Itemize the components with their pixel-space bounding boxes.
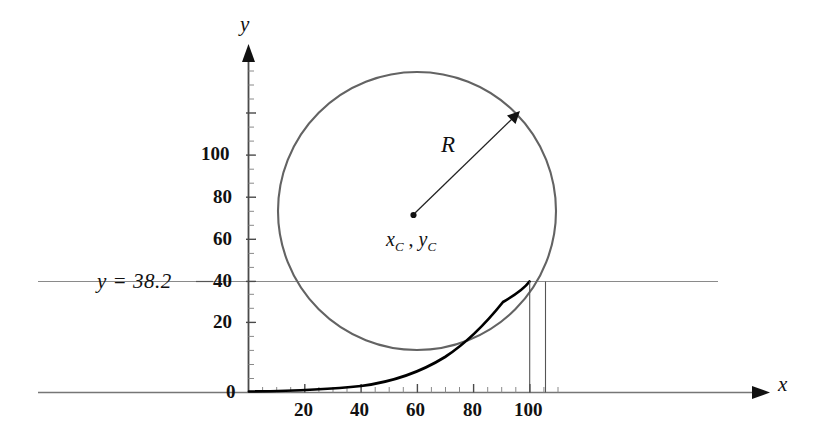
x-tick-label-40: 40 [350,399,369,421]
x-tick-label-100: 100 [514,399,543,421]
center-label-separator: , [404,228,419,250]
x-tick-label-20: 20 [294,399,313,421]
y-axis-arrowhead [242,44,255,62]
y-tick-label-0: 0 [226,381,236,403]
y-tick-label-20: 20 [213,311,232,333]
y-tick-label-100: 100 [201,143,230,165]
x-tick-label-60: 60 [406,399,425,421]
y-tick-label-60: 60 [213,228,232,250]
power-curve [249,282,530,392]
y-axis-major-ticks [246,113,256,322]
x-axis-arrowhead [752,386,770,399]
circle-center-label: xC , yC [386,228,436,255]
center-label-y-sub: C [427,239,436,254]
center-label-x: x [386,228,395,250]
plot-figure [0,0,817,441]
x-axis-label: x [778,372,787,397]
horizontal-line-label: y = 38.2 [97,269,172,294]
radius-label: R [441,132,455,158]
y-tick-label-80: 80 [213,186,232,208]
radius-arrow-line [415,119,512,213]
x-tick-label-80: 80 [463,399,482,421]
y-tick-label-40: 40 [213,270,232,292]
center-label-x-sub: C [395,239,404,254]
y-axis-label: y [240,12,249,37]
